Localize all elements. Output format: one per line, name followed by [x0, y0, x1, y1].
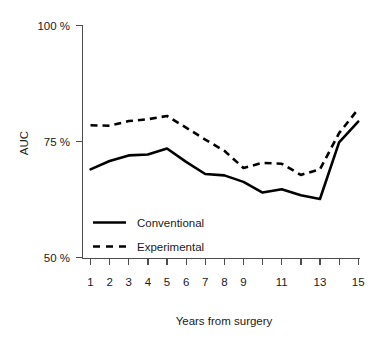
x-tick-label-5: 5 — [164, 276, 170, 288]
y-axis-title: AUC — [18, 131, 30, 155]
x-tick-label-9: 9 — [240, 276, 246, 288]
y-tick-label-75: 75 % — [44, 136, 70, 148]
x-tick-label-4: 4 — [145, 276, 152, 288]
y-tick-label-100: 100 % — [37, 20, 70, 32]
chart-figure: 100 % 75 % 50 % AUC 1 2 — [0, 0, 389, 344]
chart-background — [0, 0, 389, 344]
x-tick-label-1: 1 — [87, 276, 93, 288]
x-axis-title: Years from surgery — [176, 315, 273, 327]
x-axis-tick-labels: 1 2 3 4 5 6 7 8 9 11 13 15 — [87, 276, 364, 288]
x-tick-label-6: 6 — [183, 276, 189, 288]
legend-label-experimental: Experimental — [137, 241, 204, 253]
legend-label-conventional: Conventional — [137, 217, 204, 229]
x-tick-label-2: 2 — [106, 276, 112, 288]
x-tick-label-15: 15 — [352, 276, 365, 288]
x-tick-label-7: 7 — [202, 276, 208, 288]
x-tick-label-3: 3 — [125, 276, 131, 288]
auc-line-chart: 100 % 75 % 50 % AUC 1 2 — [0, 0, 389, 344]
x-tick-label-11: 11 — [276, 276, 288, 288]
x-tick-label-8: 8 — [221, 276, 227, 288]
x-tick-label-13: 13 — [314, 276, 327, 288]
y-tick-label-50: 50 % — [44, 252, 70, 264]
